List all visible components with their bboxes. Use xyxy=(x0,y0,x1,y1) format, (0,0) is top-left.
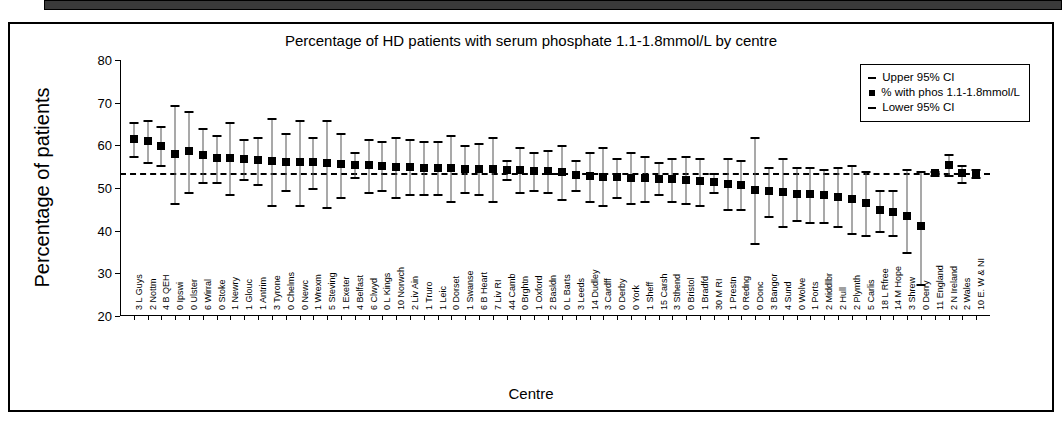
lower-ci-cap xyxy=(682,203,691,205)
upper-ci-cap xyxy=(364,139,373,141)
value-marker xyxy=(765,187,773,195)
x-tick-label: 0 L Kings xyxy=(382,273,392,310)
x-tick-label: 6 Clwyd xyxy=(369,278,379,310)
x-tick-label: 0 Chelms xyxy=(286,272,296,310)
x-tick-label: 1 Glouc xyxy=(244,279,254,310)
value-marker xyxy=(516,166,524,174)
x-tick-mark xyxy=(465,316,466,320)
lower-ci-cap xyxy=(696,205,705,207)
data-point xyxy=(833,60,843,316)
upper-ci-cap xyxy=(765,167,774,169)
x-tick-mark xyxy=(203,316,204,320)
lower-ci-cap xyxy=(640,201,649,203)
value-marker xyxy=(655,175,663,183)
upper-ci-cap xyxy=(336,133,345,135)
upper-ci-cap xyxy=(323,120,332,122)
upper-ci-cap xyxy=(557,145,566,147)
upper-ci-cap xyxy=(447,135,456,137)
upper-ci-cap xyxy=(198,128,207,130)
value-marker xyxy=(420,164,428,172)
value-marker xyxy=(972,169,980,177)
x-tick-label: 0 Wolve xyxy=(797,278,807,310)
lower-ci-cap xyxy=(875,231,884,233)
upper-ci-cap xyxy=(295,120,304,122)
data-point xyxy=(198,60,208,316)
chart-frame: Percentage of HD patients with serum pho… xyxy=(8,22,1054,412)
x-tick-label: 14 M Hope xyxy=(893,266,903,310)
value-marker xyxy=(351,161,359,169)
lower-ci-cap xyxy=(392,197,401,199)
data-point xyxy=(170,60,180,316)
x-tick-mark xyxy=(396,316,397,320)
x-tick-label: 1 Exeter xyxy=(341,276,351,310)
x-tick-mark xyxy=(838,316,839,320)
upper-ci-cap xyxy=(613,158,622,160)
x-tick-mark xyxy=(672,316,673,320)
value-marker xyxy=(378,162,386,170)
value-marker xyxy=(627,174,635,182)
value-marker xyxy=(282,158,290,166)
chart-page: Percentage of HD patients with serum pho… xyxy=(0,0,1062,426)
x-tick-label: 4 Belfast xyxy=(355,275,365,310)
x-tick-label: 3 L Guys xyxy=(134,274,144,310)
lower-ci-cap xyxy=(129,156,138,158)
x-tick-label: 6 Wirral xyxy=(203,279,213,310)
lower-ci-cap xyxy=(185,192,194,194)
upper-ci-cap xyxy=(433,141,442,143)
upper-ci-cap xyxy=(751,137,760,139)
upper-ci-cap xyxy=(544,150,553,152)
x-tick-label: 2 Wales xyxy=(962,278,972,310)
upper-ci-cap xyxy=(502,160,511,162)
legend-label: Upper 95% CI xyxy=(882,70,954,85)
top-bar xyxy=(44,0,1062,10)
lower-ci-cap xyxy=(143,162,152,164)
upper-ci-cap xyxy=(530,152,539,154)
legend-item-lower-ci: Lower 95% CI xyxy=(868,100,1020,115)
lower-ci-cap xyxy=(240,179,249,181)
x-tick-label: 3 Tyrone xyxy=(272,275,282,310)
upper-ci-cap xyxy=(723,158,732,160)
lower-ci-cap xyxy=(364,192,373,194)
lower-ci-cap xyxy=(336,197,345,199)
value-marker xyxy=(461,165,469,173)
value-marker xyxy=(434,164,442,172)
lower-ci-cap xyxy=(599,205,608,207)
x-tick-label: 0 Redng xyxy=(741,276,751,310)
upper-ci-cap xyxy=(309,137,318,139)
x-tick-label: 0 Derry xyxy=(921,280,931,310)
lower-ci-cap xyxy=(226,194,235,196)
lower-ci-cap xyxy=(861,235,870,237)
x-tick-mark xyxy=(769,316,770,320)
x-tick-mark xyxy=(175,316,176,320)
lower-ci-cap xyxy=(447,201,456,203)
upper-ci-cap xyxy=(834,167,843,169)
x-tick-mark xyxy=(935,316,936,320)
lower-ci-cap xyxy=(530,190,539,192)
lower-ci-cap xyxy=(847,233,856,235)
x-axis-label: Centre xyxy=(10,385,1052,402)
x-tick-label: 1 Leic xyxy=(438,286,448,310)
x-tick-label: 0 York xyxy=(631,285,641,310)
value-marker xyxy=(489,165,497,173)
upper-ci-cap xyxy=(406,139,415,141)
x-tick-mark xyxy=(659,316,660,320)
upper-ci-cap xyxy=(599,147,608,149)
x-tick-mark xyxy=(548,316,549,320)
value-marker xyxy=(958,169,966,177)
x-tick-label: 1 Prestn xyxy=(728,276,738,310)
x-tick-label: 5 Steving xyxy=(327,272,337,310)
value-marker xyxy=(751,186,759,194)
lower-ci-cap xyxy=(778,226,787,228)
lower-ci-cap xyxy=(198,182,207,184)
data-point xyxy=(640,60,650,316)
value-marker xyxy=(171,150,179,158)
lower-ci-cap xyxy=(295,205,304,207)
upper-ci-cap xyxy=(696,158,705,160)
upper-ci-cap xyxy=(461,145,470,147)
square-icon xyxy=(869,90,875,96)
lower-ci-cap xyxy=(544,192,553,194)
upper-ci-cap xyxy=(516,147,525,149)
value-marker xyxy=(641,174,649,182)
lower-ci-cap xyxy=(516,192,525,194)
x-tick-label: 0 Stoke xyxy=(217,279,227,310)
